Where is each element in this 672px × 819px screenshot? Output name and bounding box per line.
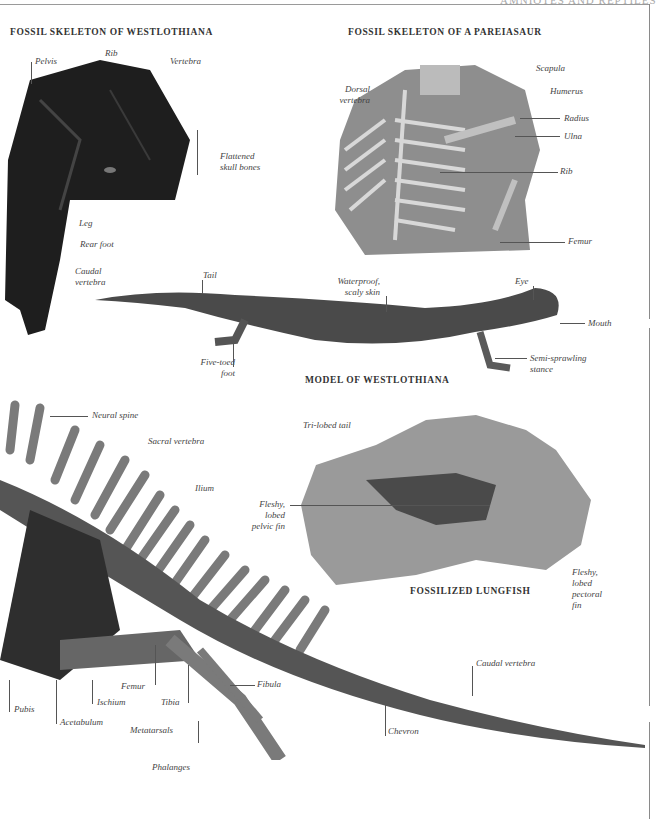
label-semi-sprawling: Semi-sprawling (530, 353, 587, 363)
top-rule (0, 4, 650, 5)
label-dorsal: Dorsal (320, 84, 370, 94)
label-tail: Tail (203, 270, 217, 280)
label-vertebra: Vertebra (170, 56, 201, 66)
label-mouth: Mouth (588, 318, 612, 328)
leader-line (386, 296, 387, 312)
label-chevron: Chevron (388, 726, 419, 736)
label-waterproof: Waterproof, (300, 276, 380, 286)
label-metatarsals: Metatarsals (130, 725, 173, 735)
leader-line (560, 323, 585, 324)
leader-line (92, 680, 93, 704)
label-foot: foot (185, 368, 235, 378)
bracket-line (197, 130, 198, 175)
westlothiana-fossil-title: FOSSIL SKELETON OF WESTLOTHIANA (10, 27, 213, 37)
label-scapula: Scapula (536, 63, 565, 73)
westlothiana-model-title: MODEL OF WESTLOTHIANA (305, 375, 450, 385)
label-leg: Leg (79, 218, 93, 228)
leader-line (520, 118, 560, 119)
label-stance: stance (530, 364, 553, 374)
leader-line (56, 680, 57, 724)
leader-line (385, 700, 386, 736)
label-flattened: Flattened (220, 151, 255, 161)
label-humerus: Humerus (550, 86, 583, 96)
pareiasaur-fossil-title: FOSSIL SKELETON OF A PAREIASAUR (348, 27, 542, 37)
leader-line (50, 416, 88, 417)
leader-line (9, 680, 10, 712)
label-femur: Femur (568, 236, 592, 246)
leader-line (188, 665, 189, 703)
label-fibula: Fibula (257, 679, 281, 689)
label-ischium: Ischium (97, 697, 126, 707)
label-pubis: Pubis (14, 704, 35, 714)
label-acetabulum: Acetabulum (60, 717, 103, 727)
label-tibia: Tibia (161, 697, 180, 707)
bracket-line (198, 721, 199, 743)
label-rear-foot: Rear foot (80, 239, 114, 249)
label-eye: Eye (515, 276, 529, 286)
leader-line (202, 280, 203, 294)
leader-line (472, 666, 473, 696)
leader-line (233, 340, 234, 367)
label-skull-bones: skull bones (220, 162, 260, 172)
label-ilium: Ilium (195, 483, 214, 493)
leader-line (495, 358, 527, 359)
right-rule (649, 4, 650, 319)
label-sacral-vertebra: Sacral vertebra (148, 436, 204, 446)
label-rib: Rib (105, 48, 118, 58)
label-radius: Radius (564, 113, 589, 123)
label-scaly-skin: scaly skin (300, 287, 380, 297)
leader-line (155, 645, 156, 685)
leader-line (533, 286, 534, 300)
label-caudal-vertebra: Caudal vertebra (476, 658, 535, 668)
leader-line (500, 242, 565, 243)
label-dorsal-vertebra: vertebra (320, 95, 370, 105)
label-neural-spine: Neural spine (92, 410, 138, 420)
leader-line (515, 136, 560, 137)
label-rib: Rib (560, 166, 573, 176)
leader-line (440, 172, 558, 173)
label-phalanges: Phalanges (152, 762, 190, 772)
leader-line (31, 62, 32, 84)
label-five-toed: Five-toed (185, 357, 235, 367)
label-pelvis: Pelvis (35, 56, 57, 66)
label-ulna: Ulna (564, 131, 582, 141)
label-femur: Femur (121, 681, 145, 691)
leader-line (230, 685, 255, 686)
label-caudal: Caudal (75, 266, 102, 276)
